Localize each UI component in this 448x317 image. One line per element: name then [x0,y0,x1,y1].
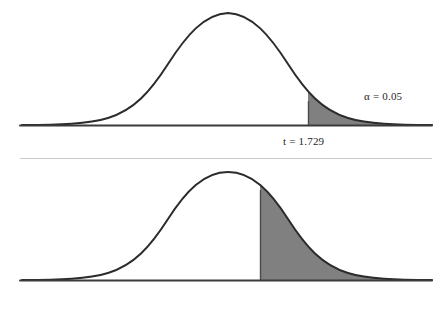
p-value-region-fill [22,172,432,280]
critical-value-label: t = 1.729 [283,135,324,147]
critical-value-chart [0,0,448,160]
rejection-region-fill [22,13,432,125]
t-distribution-figure: α = 0.05 t = 1.729 p-value = 0.2357 T = … [0,0,448,317]
p-value-chart [0,157,448,317]
t-distribution-curve [22,172,432,280]
significance-level-label: α = 0.05 [364,90,402,102]
critical-value-panel: α = 0.05 t = 1.729 [0,0,448,160]
p-value-panel: p-value = 0.2357 T = 0.735 [0,157,448,317]
t-distribution-curve [22,13,432,125]
